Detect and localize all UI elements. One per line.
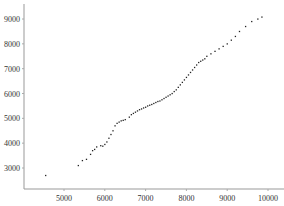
data-point (176, 89, 177, 90)
data-point (123, 120, 124, 121)
data-point (231, 40, 232, 41)
data-point (192, 69, 193, 70)
scatter-chart: 3000400050006000700080009000 50006000700… (0, 0, 284, 206)
data-point (186, 77, 187, 78)
data-point (198, 62, 199, 63)
x-tick-label: 10000 (258, 194, 278, 203)
y-tick-label: 7000 (4, 65, 20, 74)
data-point (104, 144, 105, 145)
data-point (133, 113, 134, 114)
data-point (239, 31, 240, 32)
data-point (196, 64, 197, 65)
data-point (145, 107, 146, 108)
data-point (129, 117, 130, 118)
data-point (202, 59, 203, 60)
data-point (184, 79, 185, 80)
data-point (90, 154, 91, 155)
data-point (139, 109, 140, 110)
data-point (121, 120, 122, 121)
data-point (118, 121, 119, 122)
y-ticks: 3000400050006000700080009000 (4, 15, 24, 173)
y-tick-label: 3000 (4, 164, 20, 173)
data-point (110, 134, 111, 135)
data-point (261, 16, 262, 17)
data-point (102, 146, 103, 147)
data-point (141, 108, 142, 109)
data-point (131, 114, 132, 115)
data-point (257, 18, 258, 19)
data-point (78, 165, 79, 166)
data-point (182, 82, 183, 83)
data-point (94, 149, 95, 150)
data-point (190, 72, 191, 73)
data-point (167, 95, 168, 96)
x-tick-label: 6000 (97, 194, 113, 203)
data-point (153, 103, 154, 104)
y-tick-label: 9000 (4, 15, 20, 24)
data-point (96, 146, 97, 147)
data-point (188, 74, 189, 75)
data-point (174, 91, 175, 92)
data-point (135, 112, 136, 113)
data-point (112, 130, 113, 131)
data-point (108, 138, 109, 139)
x-tick-label: 9000 (219, 194, 235, 203)
data-point (165, 97, 166, 98)
x-tick-label: 8000 (178, 194, 194, 203)
data-point (157, 101, 158, 102)
y-tick-label: 4000 (4, 139, 20, 148)
data-point (86, 159, 87, 160)
data-point (204, 58, 205, 59)
data-point (206, 56, 207, 57)
data-point (143, 107, 144, 108)
y-tick-label: 6000 (4, 90, 20, 99)
data-point (161, 99, 162, 100)
data-point (163, 98, 164, 99)
data-point (210, 53, 211, 54)
data-point (155, 102, 156, 103)
data-point (149, 105, 150, 106)
data-point (223, 46, 224, 47)
data-point (194, 67, 195, 68)
data-point (114, 125, 115, 126)
data-point (251, 21, 252, 22)
data-point (227, 43, 228, 44)
data-point (235, 36, 236, 37)
data-point (180, 84, 181, 85)
plot-points (45, 16, 263, 176)
data-point (159, 100, 160, 101)
data-point (92, 150, 93, 151)
data-point (45, 175, 46, 176)
data-point (116, 123, 117, 124)
data-point (214, 51, 215, 52)
data-point (147, 105, 148, 106)
data-point (218, 48, 219, 49)
data-point (200, 61, 201, 62)
data-point (178, 87, 179, 88)
data-point (100, 145, 101, 146)
data-point (151, 104, 152, 105)
x-ticks: 5000600070008000900010000 (56, 189, 278, 203)
data-point (169, 94, 170, 95)
data-point (245, 26, 246, 27)
x-tick-label: 5000 (56, 194, 72, 203)
data-point (106, 141, 107, 142)
data-point (125, 119, 126, 120)
data-point (137, 110, 138, 111)
data-point (172, 93, 173, 94)
y-tick-label: 5000 (4, 114, 20, 123)
data-point (82, 160, 83, 161)
x-tick-label: 7000 (138, 194, 154, 203)
y-tick-label: 8000 (4, 40, 20, 49)
